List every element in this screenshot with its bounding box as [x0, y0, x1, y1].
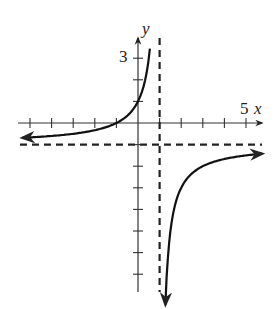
plot-area: y x 5 3 — [0, 0, 275, 309]
rational-function-graph: y x 5 3 — [0, 0, 275, 309]
y-tick-label-3: 3 — [119, 47, 128, 66]
x-tick-label-5: 5 — [240, 99, 249, 118]
curves — [22, 49, 262, 305]
y-axis-label: y — [140, 19, 150, 38]
axes — [18, 38, 262, 292]
asymptotes — [20, 38, 262, 292]
x-axis-label: x — [253, 99, 262, 118]
